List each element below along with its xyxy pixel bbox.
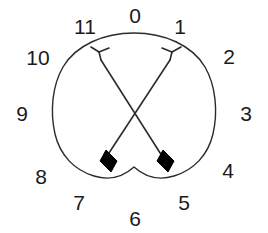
clock-label-9: 9 xyxy=(16,103,28,124)
arrow-shaft xyxy=(101,60,162,156)
clock-label-3: 3 xyxy=(240,103,252,124)
arrow-nock-branch-left xyxy=(162,48,172,52)
clock-label-2: 2 xyxy=(223,46,235,67)
arrow-head xyxy=(100,150,117,172)
arrow-left-to-right xyxy=(91,47,174,172)
arrow-nock-stem xyxy=(170,52,172,60)
clock-label-4: 4 xyxy=(222,160,234,181)
arrow-nock-branch-right xyxy=(99,48,109,52)
clock-label-8: 8 xyxy=(35,166,47,187)
clock-label-10: 10 xyxy=(26,47,49,68)
clock-position-diagram: 01234567891011 xyxy=(0,0,268,233)
clock-label-1: 1 xyxy=(174,16,186,37)
arrow-shaft xyxy=(107,60,170,156)
clock-label-6: 6 xyxy=(129,208,141,229)
arrow-right-to-left xyxy=(100,47,181,172)
arrow-nock-branch-left xyxy=(91,47,99,52)
arrow-nock-stem xyxy=(99,52,101,60)
clock-label-11: 11 xyxy=(74,16,96,37)
clock-label-7: 7 xyxy=(73,192,85,213)
arrow-nock-branch-right xyxy=(172,47,181,52)
diagram-canvas xyxy=(0,0,268,233)
heart-shape-outline xyxy=(52,33,215,178)
clock-label-5: 5 xyxy=(178,192,190,213)
clock-label-0: 0 xyxy=(129,5,141,26)
